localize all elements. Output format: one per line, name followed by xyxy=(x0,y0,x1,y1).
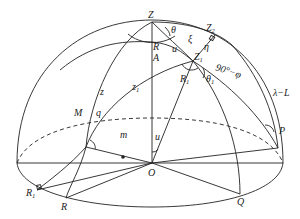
arc-Z1-M-R1 xyxy=(37,61,193,190)
angle-arc-q xyxy=(90,140,95,149)
label-R1-bottom: R1 xyxy=(25,187,35,199)
label-M: M xyxy=(73,107,83,118)
label-xi: ξ xyxy=(188,33,193,45)
label-m: m xyxy=(120,129,127,140)
label-lambda-L: λ−L xyxy=(272,87,290,98)
label-Z2: Z2 xyxy=(206,22,216,34)
label-R-top: R xyxy=(152,41,159,52)
hemisphere-diagram: Z Z2 Z1 θ ξ η R A u R1 θ1 90°−φ z z1 M q… xyxy=(0,0,300,219)
label-R-bottom: R xyxy=(60,201,67,212)
label-z1: z1 xyxy=(131,81,139,93)
arc-Z-Z2-P xyxy=(152,22,278,148)
label-z: z xyxy=(99,86,104,97)
line-O-P xyxy=(152,148,278,163)
label-A: A xyxy=(152,52,160,63)
line-M-O xyxy=(86,147,152,163)
label-P: P xyxy=(278,125,285,136)
label-eta: η xyxy=(204,41,209,52)
point-m xyxy=(121,155,125,159)
label-O: O xyxy=(148,167,155,178)
label-theta: θ xyxy=(171,24,176,35)
arc-Z1-Q xyxy=(193,61,240,194)
label-colatitude: 90°−φ xyxy=(214,61,243,80)
horizon-back-dashed xyxy=(17,118,283,163)
diagram-svg: Z Z2 Z1 θ ξ η R A u R1 θ1 90°−φ z z1 M q… xyxy=(0,0,300,219)
line-O-Q xyxy=(152,163,240,194)
label-u-top: u xyxy=(172,43,177,54)
line-Z1-O xyxy=(152,61,193,163)
label-Z1: Z1 xyxy=(194,51,203,63)
label-q: q xyxy=(96,107,101,118)
label-Z: Z xyxy=(148,9,154,20)
angle-arc-theta1 xyxy=(203,68,205,78)
label-u-bottom: u xyxy=(155,131,160,142)
label-Q: Q xyxy=(237,196,245,207)
